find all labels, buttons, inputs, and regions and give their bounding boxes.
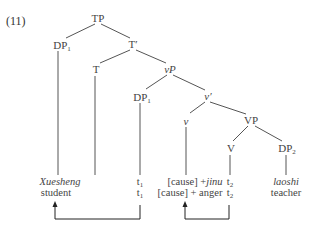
leaf-trace2-bottom: t2 [227, 187, 233, 202]
node-tp: TP [92, 12, 105, 24]
tree-branches [0, 0, 316, 234]
node-t-bar: T′ [128, 38, 137, 50]
arrowhead-icon [183, 201, 188, 207]
node-little-v-bar: v′ [204, 90, 211, 102]
leaf-cause-anger: [cause] + anger [158, 187, 223, 198]
node-little-vp: vP [164, 63, 176, 75]
arrowhead-icon [53, 201, 58, 207]
node-dp1-inner: DP1 [133, 91, 151, 107]
node-t: T [93, 63, 100, 75]
leaf-xuesheng: Xuesheng [40, 176, 81, 187]
leaf-student: student [41, 187, 71, 198]
node-dp1-spec: DP1 [53, 39, 71, 55]
movement-arrows [55, 205, 229, 219]
leaf-cause-jinu: [cause] +jinu [167, 176, 222, 187]
node-dp2: DP2 [278, 142, 296, 158]
leaf-laoshi: laoshi [273, 176, 299, 187]
node-little-v: v [184, 115, 189, 127]
node-v: V [227, 142, 235, 154]
node-vp: VP [244, 114, 258, 126]
leaf-teacher: teacher [271, 187, 301, 198]
leaf-trace1-bottom: t1 [137, 187, 143, 202]
